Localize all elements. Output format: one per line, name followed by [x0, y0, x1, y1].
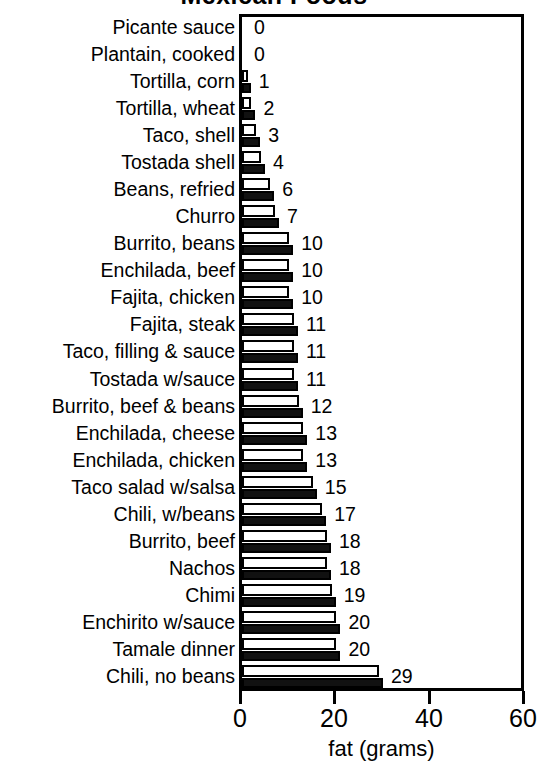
x-tick-label-60: 60	[488, 706, 548, 731]
x-axis-title: fat (grams)	[239, 738, 524, 760]
x-tick-0	[239, 691, 242, 704]
x-axis: 0 20 40 60 fat (grams)	[0, 0, 548, 770]
x-tick-label-0: 0	[205, 706, 275, 731]
x-tick-40	[428, 691, 431, 704]
x-tick-label-20: 20	[299, 706, 369, 731]
fat-content-bar-chart: Mexican Foods Picante sauce0Plantain, co…	[0, 0, 548, 770]
x-tick-60	[522, 691, 525, 704]
x-tick-20	[333, 691, 336, 704]
x-tick-label-40: 40	[394, 706, 464, 731]
